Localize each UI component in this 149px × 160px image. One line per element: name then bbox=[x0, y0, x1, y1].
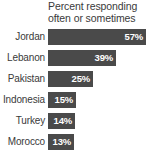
bar-value-lebanon: 39% bbox=[95, 50, 113, 66]
category-label-turkey: Turkey bbox=[0, 113, 45, 129]
category-label-indonesia: Indonesia bbox=[0, 92, 45, 108]
category-label-pakistan: Pakistan bbox=[0, 71, 45, 87]
bar-value-indonesia: 15% bbox=[55, 92, 73, 108]
bar-row: Lebanon 39% bbox=[0, 50, 149, 66]
category-label-morocco: Morocco bbox=[0, 134, 45, 150]
bar-lebanon: 39% bbox=[48, 50, 116, 66]
bar-row: Jordan 57% bbox=[0, 29, 149, 45]
bar-value-turkey: 14% bbox=[54, 113, 72, 129]
plot-area: Jordan 57% Lebanon 39% Pakistan 25% bbox=[0, 29, 149, 155]
bar-indonesia: 15% bbox=[48, 92, 76, 108]
bar-row: Turkey 14% bbox=[0, 113, 149, 129]
bar-track: 57% bbox=[48, 29, 149, 45]
bar-row: Pakistan 25% bbox=[0, 71, 149, 87]
chart-title-line-2: often or sometimes bbox=[48, 13, 149, 25]
bar-track: 13% bbox=[48, 134, 149, 150]
category-label-lebanon: Lebanon bbox=[0, 50, 45, 66]
bar-value-jordan: 57% bbox=[125, 29, 143, 45]
bar-track: 14% bbox=[48, 113, 149, 129]
chart-title-line-1: Percent responding bbox=[48, 1, 149, 13]
bar-row: Indonesia 15% bbox=[0, 92, 149, 108]
bar-value-morocco: 13% bbox=[53, 134, 71, 150]
bar-value-pakistan: 25% bbox=[72, 71, 90, 87]
bar-track: 15% bbox=[48, 92, 149, 108]
bar-row: Morocco 13% bbox=[0, 134, 149, 150]
bar-morocco: 13% bbox=[48, 134, 74, 150]
bar-track: 39% bbox=[48, 50, 149, 66]
bar-chart: Percent responding often or sometimes Jo… bbox=[0, 0, 149, 160]
bar-track: 25% bbox=[48, 71, 149, 87]
bar-pakistan: 25% bbox=[48, 71, 93, 87]
bar-jordan: 57% bbox=[48, 29, 146, 45]
bar-turkey: 14% bbox=[48, 113, 75, 129]
category-label-jordan: Jordan bbox=[0, 29, 45, 45]
chart-title: Percent responding often or sometimes bbox=[48, 1, 149, 24]
